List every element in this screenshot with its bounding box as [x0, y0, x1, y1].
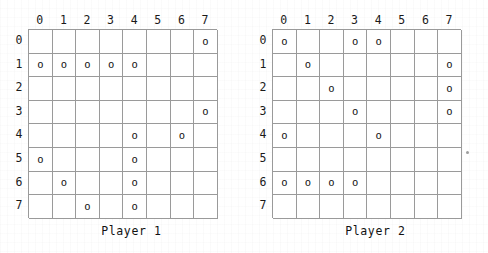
grid-cell[interactable]	[320, 124, 344, 148]
grid-cell[interactable]: o	[320, 77, 344, 101]
grid-cell[interactable]: o	[123, 124, 147, 148]
grid-cell[interactable]: o	[29, 148, 53, 172]
grid-cell[interactable]	[273, 195, 297, 219]
grid-cell[interactable]	[100, 30, 124, 54]
grid-cell[interactable]	[320, 195, 344, 219]
grid-cell[interactable]	[194, 195, 218, 219]
grid-cell[interactable]	[29, 101, 53, 125]
grid-cell[interactable]	[438, 195, 462, 219]
grid-cell[interactable]	[29, 172, 53, 196]
grid-cell[interactable]	[76, 77, 100, 101]
grid-cell[interactable]	[171, 77, 195, 101]
grid-cell[interactable]: o	[438, 54, 462, 78]
grid-cell[interactable]	[53, 30, 77, 54]
grid-cell[interactable]: o	[123, 148, 147, 172]
grid-cell[interactable]	[100, 124, 124, 148]
grid-cell[interactable]: o	[438, 101, 462, 125]
grid-cell[interactable]: o	[367, 30, 391, 54]
grid-cell[interactable]	[29, 30, 53, 54]
grid-cell[interactable]	[391, 124, 415, 148]
grid-cell[interactable]	[391, 77, 415, 101]
grid-cell[interactable]	[415, 195, 439, 219]
grid-cell[interactable]	[194, 124, 218, 148]
grid-cell[interactable]	[147, 148, 171, 172]
grid-cell[interactable]: o	[123, 195, 147, 219]
grid-cell[interactable]	[367, 195, 391, 219]
grid-cell[interactable]	[53, 101, 77, 125]
grid-cell[interactable]	[297, 30, 321, 54]
grid-cell[interactable]	[100, 101, 124, 125]
grid-cell[interactable]	[171, 54, 195, 78]
grid-cell[interactable]	[297, 195, 321, 219]
grid-cell[interactable]: o	[123, 54, 147, 78]
grid-cell[interactable]	[273, 101, 297, 125]
grid-cell[interactable]	[147, 77, 171, 101]
grid-cell[interactable]	[344, 54, 368, 78]
grid-cell[interactable]: o	[171, 124, 195, 148]
grid-cell[interactable]	[320, 30, 344, 54]
grid-cell[interactable]: o	[194, 101, 218, 125]
grid-cell[interactable]	[367, 148, 391, 172]
grid-cell[interactable]	[53, 195, 77, 219]
grid-cell[interactable]	[123, 101, 147, 125]
grid-cell[interactable]	[53, 77, 77, 101]
grid-cell[interactable]: o	[367, 124, 391, 148]
grid-cell[interactable]	[415, 30, 439, 54]
grid-cell[interactable]	[415, 148, 439, 172]
grid-cell[interactable]	[53, 148, 77, 172]
grid-cell[interactable]: o	[297, 172, 321, 196]
grid-cell[interactable]	[297, 101, 321, 125]
grid-cell[interactable]	[100, 195, 124, 219]
grid-cell[interactable]	[391, 30, 415, 54]
grid-cell[interactable]	[367, 101, 391, 125]
grid-cell[interactable]	[320, 148, 344, 172]
grid-cell[interactable]: o	[123, 172, 147, 196]
grid-cell[interactable]: o	[344, 101, 368, 125]
grid-cell[interactable]	[76, 101, 100, 125]
grid-cell[interactable]	[123, 77, 147, 101]
grid-cell[interactable]	[438, 30, 462, 54]
grid-cell[interactable]	[344, 124, 368, 148]
grid-cell[interactable]	[100, 77, 124, 101]
grid-cell[interactable]: o	[29, 54, 53, 78]
grid-cell[interactable]	[29, 124, 53, 148]
grid-cell[interactable]: o	[53, 172, 77, 196]
grid-cell[interactable]	[171, 195, 195, 219]
grid-cell[interactable]	[415, 54, 439, 78]
grid-cell[interactable]	[76, 172, 100, 196]
grid-cell[interactable]	[438, 124, 462, 148]
grid-cell[interactable]	[147, 101, 171, 125]
grid-cell[interactable]	[76, 124, 100, 148]
grid-cell[interactable]	[320, 54, 344, 78]
grid-cell[interactable]	[297, 124, 321, 148]
grid-cell[interactable]	[76, 148, 100, 172]
grid-cell[interactable]	[415, 77, 439, 101]
grid-cell[interactable]	[391, 195, 415, 219]
grid-cell[interactable]: o	[273, 124, 297, 148]
grid-cell[interactable]	[147, 54, 171, 78]
grid-cell[interactable]	[415, 124, 439, 148]
grid-cell[interactable]	[171, 172, 195, 196]
grid-cell[interactable]	[438, 172, 462, 196]
grid-cell[interactable]	[391, 54, 415, 78]
grid-cell[interactable]: o	[438, 77, 462, 101]
grid-cell[interactable]	[53, 124, 77, 148]
grid-cell[interactable]	[194, 54, 218, 78]
grid-cell[interactable]: o	[320, 172, 344, 196]
grid-cell[interactable]: o	[194, 30, 218, 54]
grid-cell[interactable]	[367, 77, 391, 101]
grid-cell[interactable]	[76, 30, 100, 54]
grid-cell[interactable]	[147, 195, 171, 219]
grid-cell[interactable]	[391, 101, 415, 125]
grid-cell[interactable]	[273, 148, 297, 172]
grid-cell[interactable]	[320, 101, 344, 125]
grid-cell[interactable]	[29, 195, 53, 219]
grid-cell[interactable]	[367, 54, 391, 78]
grid-cell[interactable]	[100, 172, 124, 196]
grid-cell[interactable]	[438, 148, 462, 172]
grid-cell[interactable]: o	[76, 195, 100, 219]
grid-cell[interactable]	[273, 77, 297, 101]
grid-cell[interactable]	[194, 77, 218, 101]
grid-cell[interactable]	[171, 148, 195, 172]
grid-cell[interactable]: o	[100, 54, 124, 78]
